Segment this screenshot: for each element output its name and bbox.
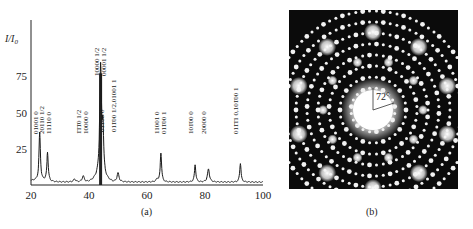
diffraction-spots: 72° [289,10,458,189]
peak-label: 101̄00 0 [187,111,195,134]
x-tick-label: 80 [200,189,212,201]
x-tick-label: 100 [255,189,272,201]
peak-label: 11110 0 [45,112,53,134]
diffraction-pattern-image: 72° [289,10,458,189]
x-tick-label: 60 [142,189,154,201]
x-tick-label: 20 [26,189,38,201]
caption-b: (b) [366,206,378,217]
y-tick-label: 25 [16,143,28,155]
y-tick-label: 75 [16,70,28,82]
x-tick-label: 40 [84,189,96,201]
peak-annotations: 01001 020110 1/211110 01̄1̄1̄0 1/210000 … [32,47,241,134]
peak-label: 011̄00 1 [160,111,168,134]
y-axis-label: I/I0 [4,33,18,46]
xrd-trace [31,62,263,182]
caption-a: (a) [141,206,152,217]
peak-label: 011̄00 1/2,01001 1 [110,79,118,132]
peak-label: 20000 0 [200,111,208,134]
peak-label: 011̄1̄1 0,101̄00 1 [232,87,240,134]
xrd-chart: 20406080100255075 01001 020110 1/211110 … [0,0,280,229]
figure: 20406080100255075 01001 020110 1/211110 … [0,0,473,229]
angle-annotation: 72° [376,91,390,102]
y-tick-label: 50 [16,107,28,119]
peak-label: 10000 0 [82,111,90,134]
